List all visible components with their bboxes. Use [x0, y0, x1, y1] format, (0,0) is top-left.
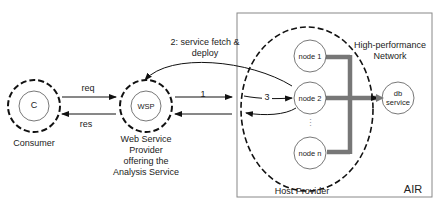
wsp-caption-line-1: Web Service: [100, 134, 192, 145]
wsp-symbol: WSP: [131, 101, 161, 112]
step1-label: 1: [198, 89, 208, 100]
req-label: req: [76, 83, 100, 94]
res-label: res: [74, 119, 98, 130]
node2-return-arrow: [246, 108, 296, 115]
node-n-label: node n: [294, 148, 326, 159]
high-performance-network: [326, 55, 378, 154]
diagram-canvas: [0, 0, 443, 220]
wsp-caption-line-4: Analysis Service: [100, 167, 192, 178]
step2-label-line-2: deploy: [170, 48, 240, 59]
host-provider-label: Host Provider: [262, 186, 342, 197]
network-label-line-2: Network: [350, 51, 430, 62]
step2-label-line-1: 2: service fetch &: [150, 37, 260, 48]
network-label-line-1: High-performance: [350, 40, 430, 51]
node-2-label: node 2: [294, 93, 326, 104]
wsp-caption-line-3: offering the: [100, 156, 192, 167]
node-ellipsis: ⋮: [305, 118, 315, 129]
step2-arrow: [145, 62, 292, 86]
node-1-label: node 1: [294, 51, 326, 62]
step3-label: 3: [262, 92, 272, 103]
db-label-line-2: service: [382, 97, 414, 108]
wsp-caption-line-2: Provider: [100, 145, 192, 156]
consumer-symbol: C: [24, 100, 44, 111]
air-label: AIR: [398, 184, 428, 195]
wsp-caption: Web Service Provider offering the Analys…: [100, 134, 192, 178]
consumer-caption: Consumer: [2, 138, 66, 149]
